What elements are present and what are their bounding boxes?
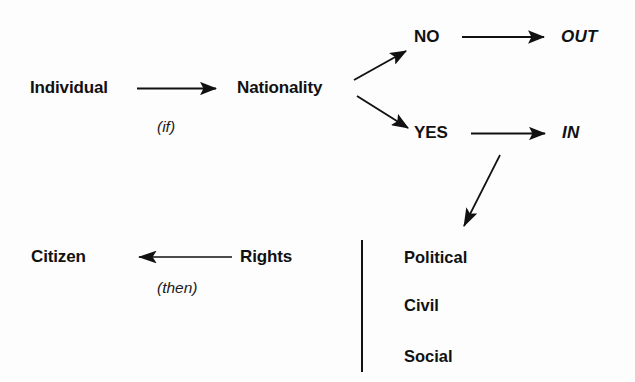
diagram-edges [0,0,635,382]
edge-nationality-to-yes [357,96,408,128]
list-item-social: Social [404,348,453,365]
list-item-civil: Civil [404,297,439,314]
node-individual: Individual [30,79,108,96]
node-yes: YES [414,124,448,141]
node-rights: Rights [240,248,292,265]
node-no: NO [414,28,439,45]
annotation-if: (if) [157,119,175,135]
node-citizen: Citizen [31,248,86,265]
node-in: IN [562,124,580,141]
node-out: OUT [561,28,598,45]
list-item-political: Political [404,249,467,266]
node-nationality: Nationality [237,79,322,96]
rights-list-group-bar [361,240,363,372]
flow-diagram: Individual (if) Nationality NO OUT YES I… [0,0,635,382]
edge-nationality-to-no [354,51,406,80]
edge-yes-to-rights-list [464,155,500,226]
annotation-then: (then) [157,280,198,296]
